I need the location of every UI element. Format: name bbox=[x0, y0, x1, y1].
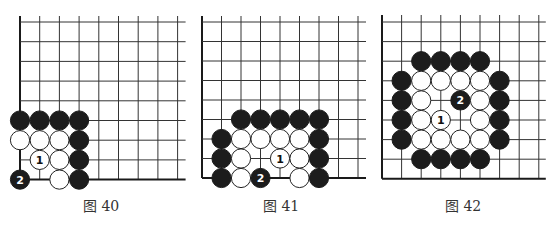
white-stone bbox=[412, 110, 431, 129]
white-stone bbox=[412, 130, 431, 149]
black-stone bbox=[412, 150, 431, 169]
black-stone bbox=[451, 150, 470, 169]
black-stone bbox=[392, 71, 411, 90]
black-stone bbox=[490, 110, 509, 129]
white-stone: 1 bbox=[431, 110, 450, 129]
white-stone bbox=[451, 71, 470, 90]
black-stone bbox=[392, 130, 411, 149]
white-stone bbox=[431, 71, 450, 90]
white-stone bbox=[451, 130, 470, 149]
white-stone bbox=[470, 91, 489, 110]
black-stone bbox=[392, 91, 411, 110]
white-stone bbox=[470, 130, 489, 149]
black-stone bbox=[392, 110, 411, 129]
black-stone bbox=[490, 71, 509, 90]
black-stone bbox=[490, 130, 509, 149]
black-stone bbox=[431, 52, 450, 71]
black-stone bbox=[412, 52, 431, 71]
black-stone bbox=[470, 52, 489, 71]
go-board-diagram: 21 bbox=[0, 0, 559, 195]
figure-caption-41: 图 41 bbox=[263, 196, 299, 216]
black-stone bbox=[451, 52, 470, 71]
white-stone bbox=[470, 71, 489, 90]
black-stone: 2 bbox=[451, 91, 470, 110]
move-number-label: 2 bbox=[457, 94, 465, 107]
white-stone bbox=[412, 91, 431, 110]
go-board-figure-42: 21 bbox=[0, 0, 559, 195]
black-stone bbox=[470, 150, 489, 169]
move-number-label: 1 bbox=[437, 114, 445, 127]
white-stone bbox=[412, 71, 431, 90]
black-stone bbox=[431, 150, 450, 169]
black-stone bbox=[490, 91, 509, 110]
figure-caption-40: 图 40 bbox=[83, 196, 119, 216]
figure-caption-42: 图 42 bbox=[445, 196, 481, 216]
white-stone bbox=[431, 130, 450, 149]
white-stone bbox=[470, 110, 489, 129]
